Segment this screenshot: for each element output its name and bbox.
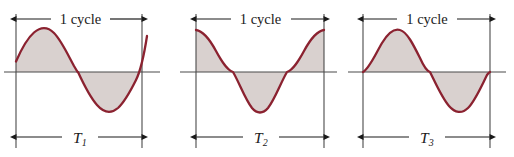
cycle-label-1: 1 cycle (60, 11, 101, 27)
waveform-panel-3: 1 cycle T3 (342, 0, 514, 157)
waveform-fill-1 (16, 28, 142, 112)
waveform-figure: 1 cycle T1 (0, 0, 514, 157)
period-label-1: T1 (73, 129, 87, 149)
waveform-panel-2: 1 cycle T2 (171, 0, 342, 157)
period-subscript-1: 1 (82, 137, 87, 148)
waveform-fill-2 (196, 30, 324, 113)
waveform-panel-1: 1 cycle T1 (0, 0, 171, 157)
period-subscript-3: 3 (428, 137, 434, 148)
period-label-2: T2 (254, 129, 268, 149)
cycle-label-3: 1 cycle (406, 11, 447, 27)
period-subscript-2: 2 (263, 137, 268, 148)
period-label-3: T3 (420, 129, 434, 149)
cycle-label-2: 1 cycle (240, 11, 281, 27)
